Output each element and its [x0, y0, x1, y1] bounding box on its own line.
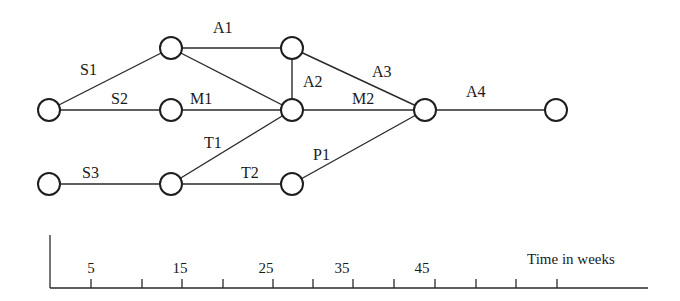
edge-label-a1: A1	[213, 19, 233, 36]
edge-label-s2: S2	[111, 90, 128, 107]
edge-label-a2: A2	[303, 73, 323, 90]
event-node-n2	[160, 99, 182, 121]
network-diagram: S1S2S3A1A2M1T1T2A3M2P1A4 515253545 Time …	[0, 0, 680, 301]
event-node-n8	[414, 99, 436, 121]
edge-label-m1: M1	[190, 90, 212, 107]
edge-p1	[292, 110, 425, 184]
event-node-n0	[38, 99, 60, 121]
edge-label-m2: M2	[352, 90, 374, 107]
event-node-n4	[160, 173, 182, 195]
event-node-n5	[281, 37, 303, 59]
event-node-n6	[281, 99, 303, 121]
edge-label-t2: T2	[241, 164, 259, 181]
edge-label-a4: A4	[466, 83, 486, 100]
time-axis-tick-labels: 515253545	[87, 260, 429, 276]
event-node-n1	[160, 37, 182, 59]
nodes-layer	[38, 37, 567, 195]
time-axis-ticks	[91, 279, 557, 288]
edge-t1	[171, 110, 292, 184]
event-node-n7	[281, 173, 303, 195]
edge-label-s3: S3	[82, 164, 99, 181]
diagram-svg: S1S2S3A1A2M1T1T2A3M2P1A4 515253545 Time …	[0, 0, 680, 301]
edge-label-a3: A3	[372, 63, 392, 80]
edge-label-s1: S1	[80, 61, 97, 78]
time-axis-tick-label: 25	[259, 260, 274, 276]
event-node-n9	[545, 99, 567, 121]
edge-s1	[49, 48, 171, 110]
event-node-n3	[38, 173, 60, 195]
time-axis-tick-label: 45	[415, 260, 430, 276]
edge-label-p1: P1	[313, 146, 330, 163]
time-axis: 515253545 Time in weeks	[50, 235, 648, 288]
time-axis-label: Time in weeks	[527, 251, 615, 267]
time-axis-tick-label: 5	[87, 260, 95, 276]
edge-label-t1: T1	[204, 134, 222, 151]
time-axis-tick-label: 35	[335, 260, 350, 276]
edges-layer	[49, 48, 556, 184]
time-axis-tick-label: 15	[173, 260, 188, 276]
